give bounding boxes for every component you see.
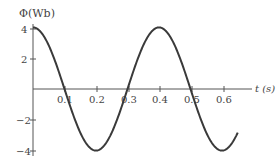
x-tick-label: 0.1: [57, 94, 73, 105]
y-tick-label: −2: [16, 115, 31, 126]
x-tick-label: 0.4: [152, 94, 168, 105]
y-tick-label: 2: [21, 54, 27, 65]
x-tick-label: 0.6: [216, 94, 232, 105]
y-axis-label: Φ(Wb): [19, 7, 55, 20]
x-tick-label: 0.2: [89, 94, 105, 105]
y-tick-label: 4: [21, 24, 27, 35]
x-axis-label: t (s): [255, 83, 275, 94]
y-tick-label: −4: [16, 146, 31, 157]
chart: Φ(Wb) t (s) 4 2 −2 −4 0.1 0.2 0.3 0.4 0.…: [0, 0, 280, 168]
